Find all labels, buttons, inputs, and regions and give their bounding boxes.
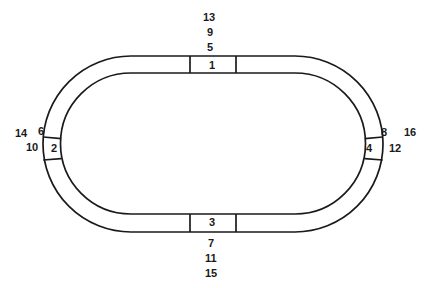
segment-2-divider-bottom — [43, 159, 61, 160]
outer-label-11: 11 — [205, 253, 217, 264]
outer-label-8: 8 — [381, 127, 387, 138]
outer-label-9: 9 — [207, 27, 213, 38]
outer-label-10: 10 — [26, 142, 38, 153]
outer-label-15: 15 — [205, 268, 217, 279]
outer-label-6: 6 — [38, 126, 44, 137]
outer-label-12: 12 — [389, 143, 401, 154]
segment-4-divider-top — [365, 137, 383, 139]
segment-label-1: 1 — [209, 60, 215, 71]
outer-label-16: 16 — [404, 127, 416, 138]
segment-label-3: 3 — [209, 217, 215, 228]
segment-label-4: 4 — [366, 143, 372, 154]
segment-2-divider-top — [43, 137, 61, 139]
outer-label-5: 5 — [207, 42, 213, 53]
track-inner-outline — [60, 73, 365, 214]
outer-label-14: 14 — [15, 128, 27, 139]
track-drawing — [0, 0, 429, 288]
outer-label-7: 7 — [208, 238, 214, 249]
segment-label-2: 2 — [51, 143, 57, 154]
track-diagram: 13 9 5 1 2 3 4 7 11 15 14 6 10 8 16 12 — [0, 0, 429, 288]
outer-label-13: 13 — [203, 12, 215, 23]
segment-4-divider-bottom — [365, 159, 383, 160]
